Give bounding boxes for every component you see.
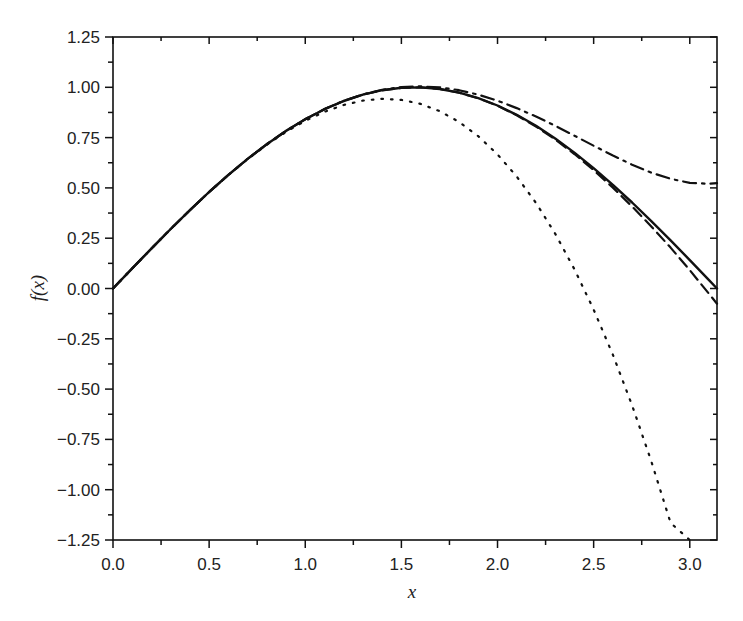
x-tick-label: 1.5 <box>390 555 414 574</box>
y-tick-label: −1.25 <box>57 531 100 550</box>
tick-labels: 0.00.51.01.52.02.53.01.251.000.750.500.2… <box>57 28 702 574</box>
x-tick-label: 1.0 <box>293 555 317 574</box>
x-tick-label: 0.0 <box>101 555 125 574</box>
x-tick-label: 2.5 <box>582 555 606 574</box>
y-tick-label: 1.25 <box>67 28 100 47</box>
y-tick-label: −0.75 <box>57 430 100 449</box>
x-tick-label: 0.5 <box>197 555 221 574</box>
chart: 0.00.51.01.52.02.53.01.251.000.750.500.2… <box>0 0 743 621</box>
y-tick-label: −1.00 <box>57 481 100 500</box>
series-line-dash-dot <box>113 86 717 288</box>
x-tick-label: 3.0 <box>678 555 702 574</box>
y-tick-label: 0.25 <box>67 229 100 248</box>
y-tick-label: 1.00 <box>67 78 100 97</box>
y-tick-label: −0.50 <box>57 380 100 399</box>
y-tick-label: 0.75 <box>67 129 100 148</box>
series-layer <box>113 86 717 540</box>
series-line-dotted <box>113 99 690 540</box>
series-line-solid <box>113 87 717 288</box>
y-tick-label: −0.25 <box>57 330 100 349</box>
plot-frame <box>113 37 717 540</box>
series-line-dashed <box>113 87 717 303</box>
y-axis-title: f(x) <box>27 275 49 301</box>
ticks-layer <box>105 37 717 548</box>
y-tick-label: 0.50 <box>67 179 100 198</box>
x-tick-label: 2.0 <box>486 555 510 574</box>
x-axis-title: x <box>407 581 417 602</box>
y-tick-label: 0.00 <box>67 280 100 299</box>
